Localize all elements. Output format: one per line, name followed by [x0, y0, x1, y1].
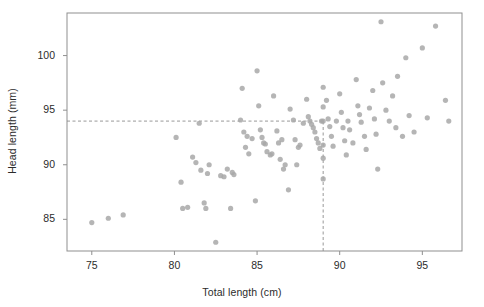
scatter-point — [193, 160, 198, 165]
scatter-point — [321, 85, 326, 90]
scatter-point — [225, 167, 230, 172]
scatter-point — [221, 174, 226, 179]
x-tick-label: 95 — [402, 259, 442, 271]
scatter-point — [202, 200, 207, 205]
scatter-point — [395, 74, 400, 79]
y-axis-title-wrapper: Head length (mm) — [0, 0, 20, 307]
scatter-point — [312, 129, 317, 134]
scatter-point — [337, 91, 342, 96]
scatter-point — [288, 106, 293, 111]
scatter-point — [238, 117, 243, 122]
x-tick-label: 85 — [237, 259, 277, 271]
scatter-point — [180, 206, 185, 211]
scatter-point — [375, 167, 380, 172]
scatter-point — [321, 143, 326, 148]
scatter-point — [301, 121, 306, 126]
scatter-point — [420, 45, 425, 50]
scatter-point — [246, 151, 251, 156]
scatter-point — [316, 140, 321, 145]
scatter-point — [283, 162, 288, 167]
scatter-point — [256, 103, 261, 108]
scatter-point — [271, 93, 276, 98]
x-axis-title: Total length (cm) — [0, 286, 484, 298]
scatter-point — [425, 115, 430, 120]
scatter-point — [243, 145, 248, 150]
scatter-point — [321, 104, 326, 109]
scatter-point — [197, 121, 202, 126]
scatter-point — [443, 98, 448, 103]
scatter-point — [258, 127, 263, 132]
scatter-point — [327, 124, 332, 129]
scatter-point — [263, 141, 268, 146]
scatter-point — [207, 162, 212, 167]
scatter-point — [292, 137, 297, 142]
scatter-point — [321, 176, 326, 181]
scatter-point — [326, 116, 331, 121]
scatter-point — [357, 112, 362, 117]
scatter-point — [228, 206, 233, 211]
y-tick-label: 100 — [15, 49, 55, 61]
scatter-point — [407, 113, 412, 118]
scatter-point — [387, 118, 392, 123]
scatter-point — [250, 136, 255, 141]
scatter-point — [178, 180, 183, 185]
scatter-point — [198, 168, 203, 173]
scatter-point — [203, 206, 208, 211]
scatter-point — [383, 108, 388, 113]
x-tick-label: 80 — [154, 259, 194, 271]
scatter-point — [362, 134, 367, 139]
scatter-point — [321, 118, 326, 123]
scatter-point — [344, 152, 349, 157]
scatter-point — [329, 134, 334, 139]
scatter-point — [354, 77, 359, 82]
scatter-point — [294, 162, 299, 167]
scatter-point — [279, 137, 284, 142]
x-tick-label: 90 — [320, 259, 360, 271]
scatter-point — [411, 129, 416, 134]
scatter-point — [372, 116, 377, 121]
scatter-point — [241, 129, 246, 134]
scatter-point — [106, 216, 111, 221]
scatter-point — [321, 156, 326, 161]
scatter-point — [297, 143, 302, 148]
scatter-point — [259, 135, 264, 140]
scatter-point — [121, 212, 126, 217]
scatter-point — [245, 134, 250, 139]
scatter-point — [359, 120, 364, 125]
y-tick-label: 95 — [15, 103, 55, 115]
scatter-point — [342, 138, 347, 143]
x-tick-label: 75 — [72, 259, 112, 271]
scatter-point — [370, 88, 375, 93]
scatter-point — [400, 134, 405, 139]
scatter-point — [340, 125, 345, 130]
scatter-point — [291, 117, 296, 122]
scatter-point — [213, 240, 218, 245]
scatter-point — [304, 97, 309, 102]
scatter-point — [355, 103, 360, 108]
scatter-point — [347, 127, 352, 132]
scatter-point — [274, 128, 279, 133]
scatter-point — [278, 157, 283, 162]
scatter-point — [205, 171, 210, 176]
scatter-point — [367, 105, 372, 110]
scatter-point — [253, 198, 258, 203]
scatter-point — [364, 147, 369, 152]
scatter-point — [345, 118, 350, 123]
scatter-point — [403, 55, 408, 60]
y-tick-label: 85 — [15, 212, 55, 224]
scatter-point — [334, 118, 339, 123]
scatter-point — [254, 68, 259, 73]
scatter-point — [286, 187, 291, 192]
y-tick-label: 90 — [15, 158, 55, 170]
scatter-point — [380, 80, 385, 85]
scatter-point — [339, 110, 344, 115]
scatter-point — [240, 86, 245, 91]
scatter-point — [190, 155, 195, 160]
scatter-point — [378, 19, 383, 24]
scatter-point — [433, 24, 438, 29]
scatter-point — [373, 132, 378, 137]
scatter-point — [446, 118, 451, 123]
scatter-point — [330, 144, 335, 149]
scatter-point — [350, 140, 355, 145]
scatter-point — [269, 151, 274, 156]
